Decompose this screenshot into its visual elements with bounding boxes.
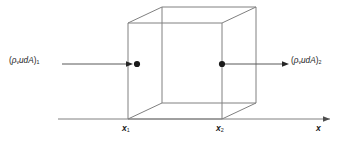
flux-in-body: udA (19, 56, 34, 65)
cube-depth-edge-top-right (222, 7, 256, 23)
inflow-arrow-group (62, 61, 133, 67)
flux-out-body: udA (301, 56, 316, 65)
outflow-point-marker (219, 61, 225, 67)
outflow-arrowhead (282, 61, 289, 67)
x1-subscript: 1 (127, 127, 130, 133)
figure-canvas: (ρvudA)1 (ρvudA)2 x1 x2 x (0, 0, 347, 142)
flux-out-index: 2 (318, 59, 321, 65)
x1-axis-label: x1 (122, 124, 130, 133)
cube-depth-edge-bottom-right (222, 103, 256, 119)
flux-in-index: 1 (36, 59, 39, 65)
x-axis-arrowhead (323, 116, 330, 121)
cube-depth-edge-top-left (128, 7, 162, 23)
flux-in-label: (ρvudA)1 (9, 57, 39, 65)
flux-out-label: (ρvudA)2 (291, 57, 321, 65)
inflow-arrowhead (126, 61, 133, 67)
x-axis-name-label: x (316, 124, 321, 133)
inflow-point-marker (134, 61, 140, 67)
x2-subscript: 2 (221, 127, 224, 133)
x-axis-group (58, 116, 330, 121)
control-volume-drawing (0, 0, 347, 142)
x2-axis-label: x2 (216, 124, 224, 133)
cube-depth-edge-bottom-left (128, 103, 162, 119)
